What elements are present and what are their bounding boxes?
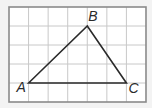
vertex-label-b: B [88, 8, 97, 24]
vertex-label-c: C [128, 80, 139, 96]
vertex-label-a: A [16, 79, 26, 95]
triangle-grid-diagram: A B C [0, 0, 152, 108]
grid-background [9, 7, 146, 102]
